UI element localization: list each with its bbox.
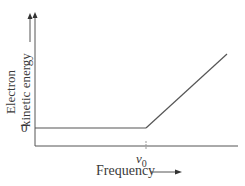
ylabel-line1: Electron	[4, 70, 18, 114]
y-axis-label: Electron kinetic energy	[2, 14, 46, 134]
x-axis-label: Frequency	[96, 163, 155, 179]
y-tick-zero: 0	[21, 120, 28, 136]
ylabel-line2: kinetic energy	[19, 53, 33, 127]
x-arrow-icon	[175, 170, 182, 175]
rising-segment	[146, 54, 227, 128]
